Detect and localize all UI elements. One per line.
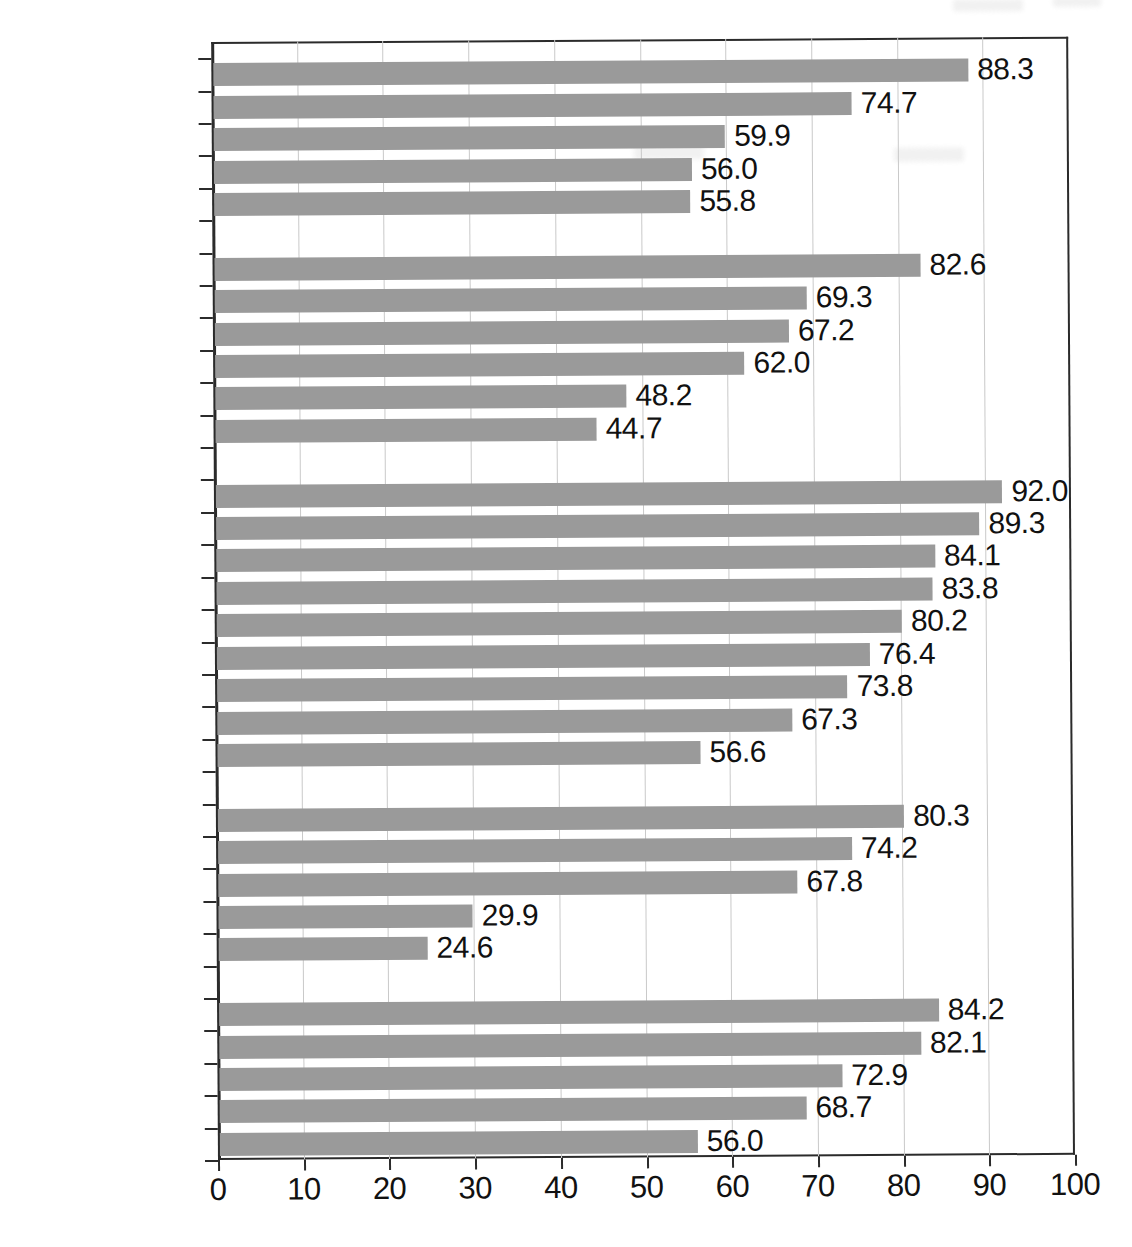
x-tick [646,1157,648,1168]
bar-value-label: 67.3 [801,704,858,734]
x-tick [475,1158,477,1169]
bar-value-label: 62.0 [753,347,810,377]
y-tick [198,91,211,93]
y-tick [205,1095,218,1097]
bar-value-label: 80.2 [911,605,968,635]
bar [217,609,902,636]
y-tick [199,155,212,157]
bar [219,1031,921,1058]
y-tick [203,771,216,773]
bar-value-label: 69.3 [816,282,873,312]
bar-value-label: 55.8 [699,186,756,216]
scan-artifact [953,0,1023,11]
y-tick [202,642,215,644]
bar [214,190,690,216]
bar [219,998,939,1025]
bar [220,1096,807,1123]
plot-right-border [1066,37,1075,1155]
bar-value-label: 92.0 [1011,476,1068,506]
x-tick [1075,1155,1077,1166]
bar [217,643,870,670]
x-tick [989,1155,991,1166]
bar [217,741,700,767]
bar-value-label: 67.2 [798,315,855,345]
x-tick [218,1160,220,1171]
bar-value-label: 82.1 [930,1027,987,1057]
bar [219,936,428,960]
y-tick [199,123,212,125]
bar-value-label: 29.9 [482,900,539,930]
bar [218,904,472,929]
y-tick [202,706,215,708]
bar [216,577,932,604]
bar [218,870,797,897]
scan-artifact [1053,0,1101,7]
bar [214,253,920,280]
y-tick [199,253,212,255]
bar-value-label: 48.2 [635,380,692,410]
y-tick [199,220,212,222]
y-tick [203,804,216,806]
bar-value-label: 76.4 [879,639,936,669]
y-tick [203,836,216,838]
y-tick [205,1128,218,1130]
bar-value-label: 84.1 [944,540,1001,570]
bar-value-label: 84.2 [948,994,1005,1024]
y-tick [202,674,215,676]
bar [216,512,979,540]
bar-value-label: 56.6 [709,737,766,767]
bar [218,804,904,831]
y-tick [201,479,214,481]
bar-value-label: 73.8 [856,671,913,701]
y-tick [201,544,214,546]
y-tick [204,933,217,935]
bar-value-label: 44.7 [606,413,663,443]
bar [214,124,725,150]
y-tick [198,58,211,60]
bar-value-label: 68.7 [815,1092,872,1122]
bar [215,319,789,346]
y-tick [201,577,214,579]
bar-chart: 88.374.759.956.055.882.669.367.262.048.2… [0,0,1132,1247]
bar-value-label: 83.8 [942,573,999,603]
bar [217,675,848,702]
x-tick [304,1159,306,1170]
bar [216,544,935,571]
y-tick [203,901,216,903]
y-tick [204,1063,217,1065]
y-tick [201,512,214,514]
bar [215,384,626,410]
y-tick [204,1030,217,1032]
plot-area: 88.374.759.956.055.882.669.367.262.048.2… [211,37,1075,1160]
bar [214,158,692,184]
bar-value-label: 89.3 [988,508,1045,538]
bar-value-label: 24.6 [436,932,493,962]
y-tick [205,1160,218,1162]
bar [220,1130,698,1156]
x-tick [561,1158,563,1169]
bar-value-label: 59.9 [734,120,791,150]
bar [219,1064,842,1091]
bar-value-label: 56.0 [701,154,758,184]
x-tick [732,1157,734,1168]
y-tick [199,188,212,190]
bar-value-label: 88.3 [977,54,1034,84]
y-tick [204,998,217,1000]
bar [218,837,852,864]
bar [217,708,792,735]
y-tick [200,415,213,417]
y-tick [204,966,217,968]
bar [216,480,1003,508]
bar-value-label: 74.7 [861,88,918,118]
bar-value-label: 67.8 [806,866,863,896]
y-tick [203,868,216,870]
x-tick [904,1156,906,1167]
bar-value-label: 80.3 [913,800,970,830]
bar [213,58,968,86]
bar [215,351,744,377]
y-tick [200,317,213,319]
bar [213,92,851,119]
bar [215,417,596,442]
x-tick [389,1159,391,1170]
y-tick [200,350,213,352]
